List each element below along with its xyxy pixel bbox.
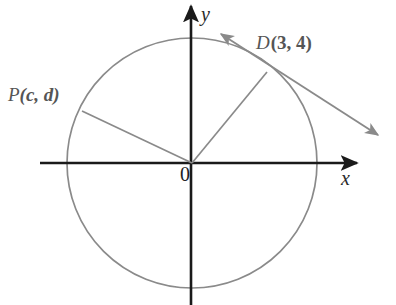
point-p-coords: (c, d) — [20, 84, 60, 105]
point-d-name: D — [256, 32, 271, 53]
origin-label: 0 — [180, 164, 190, 184]
point-d-coords: (3, 4) — [271, 32, 312, 53]
point-p-name: P — [8, 84, 20, 105]
coordinate-plane-figure: y x 0 D(3, 4) P(c, d) — [0, 0, 396, 305]
radius-to-p — [82, 111, 192, 163]
point-label-d: D(3, 4) — [256, 33, 312, 52]
radius-to-d — [192, 72, 267, 163]
point-label-p: P(c, d) — [8, 85, 60, 104]
y-axis-label: y — [201, 4, 210, 24]
figure-canvas — [0, 0, 396, 305]
x-axis-label: x — [341, 168, 350, 188]
